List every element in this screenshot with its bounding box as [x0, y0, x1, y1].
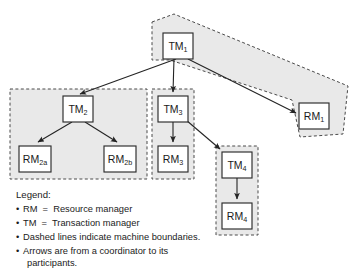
transaction-manager-hierarchy-diagram: TM1 TM2 TM3 TM4 — [0, 0, 356, 271]
node-rm1-sub: 1 — [320, 115, 324, 124]
legend-item-dashed-lines: • Dashed lines indicate machine boundari… — [16, 232, 200, 242]
legend-item-arrows: • Arrows are from a coordinator to its p… — [16, 246, 169, 268]
node-tm4-base: TM — [227, 159, 242, 171]
node-rm4-base: RM — [227, 210, 243, 222]
legend-bullet-icon: • — [16, 204, 19, 214]
legend-item-tm: • TM = Transaction manager — [16, 218, 140, 228]
node-rm3-sub: 3 — [179, 158, 183, 167]
node-tm2-base: TM — [68, 103, 83, 115]
node-rm3[interactable]: RM3 — [158, 146, 188, 172]
node-tm4-sub: 4 — [243, 164, 247, 173]
legend-item-tm-label: TM = Transaction manager — [23, 218, 140, 228]
node-rm2b-base: RM — [108, 153, 124, 165]
node-tm3-base: TM — [163, 103, 178, 115]
node-rm2a-base: RM — [23, 153, 39, 165]
diagram-root: TM1 TM2 TM3 TM4 — [0, 0, 356, 271]
node-rm2b[interactable]: RM2b — [104, 146, 136, 172]
legend-item-rm: • RM = Resource manager — [16, 204, 132, 214]
legend-bullet-icon: • — [16, 218, 19, 228]
node-rm1[interactable]: RM1 — [299, 103, 329, 129]
legend-bullet-icon: • — [16, 246, 19, 256]
legend-item-rm-label: RM = Resource manager — [23, 204, 132, 214]
legend-item-dashed-lines-label: Dashed lines indicate machine boundaries… — [23, 232, 200, 242]
node-rm2b-sub: 2b — [124, 158, 132, 167]
node-tm3-sub: 3 — [179, 108, 183, 117]
node-rm4[interactable]: RM4 — [222, 203, 252, 229]
legend: Legend: • RM = Resource manager • TM = T… — [16, 189, 200, 268]
legend-title: Legend: — [16, 189, 51, 200]
node-rm1-base: RM — [304, 110, 320, 122]
node-tm2-sub: 2 — [84, 108, 88, 117]
node-tm1[interactable]: TM1 — [163, 33, 193, 59]
node-tm1-sub: 1 — [184, 45, 188, 54]
node-tm1-base: TM — [168, 40, 183, 52]
node-rm2a[interactable]: RM2a — [19, 146, 51, 172]
node-rm2a-sub: 2a — [39, 158, 47, 167]
edge-tm1-to-tm2 — [80, 59, 176, 94]
node-rm3-base: RM — [163, 153, 179, 165]
legend-item-arrows-label: Arrows are from a coordinator to its — [23, 246, 169, 256]
edge-tm1-to-tm3 — [173, 59, 174, 92]
legend-bullet-icon: • — [16, 232, 19, 242]
node-rm4-sub: 4 — [243, 215, 247, 224]
node-tm3[interactable]: TM3 — [158, 96, 188, 122]
legend-item-arrows-continuation: participants. — [27, 258, 77, 268]
node-tm4[interactable]: TM4 — [222, 152, 252, 178]
node-tm2[interactable]: TM2 — [63, 96, 93, 122]
